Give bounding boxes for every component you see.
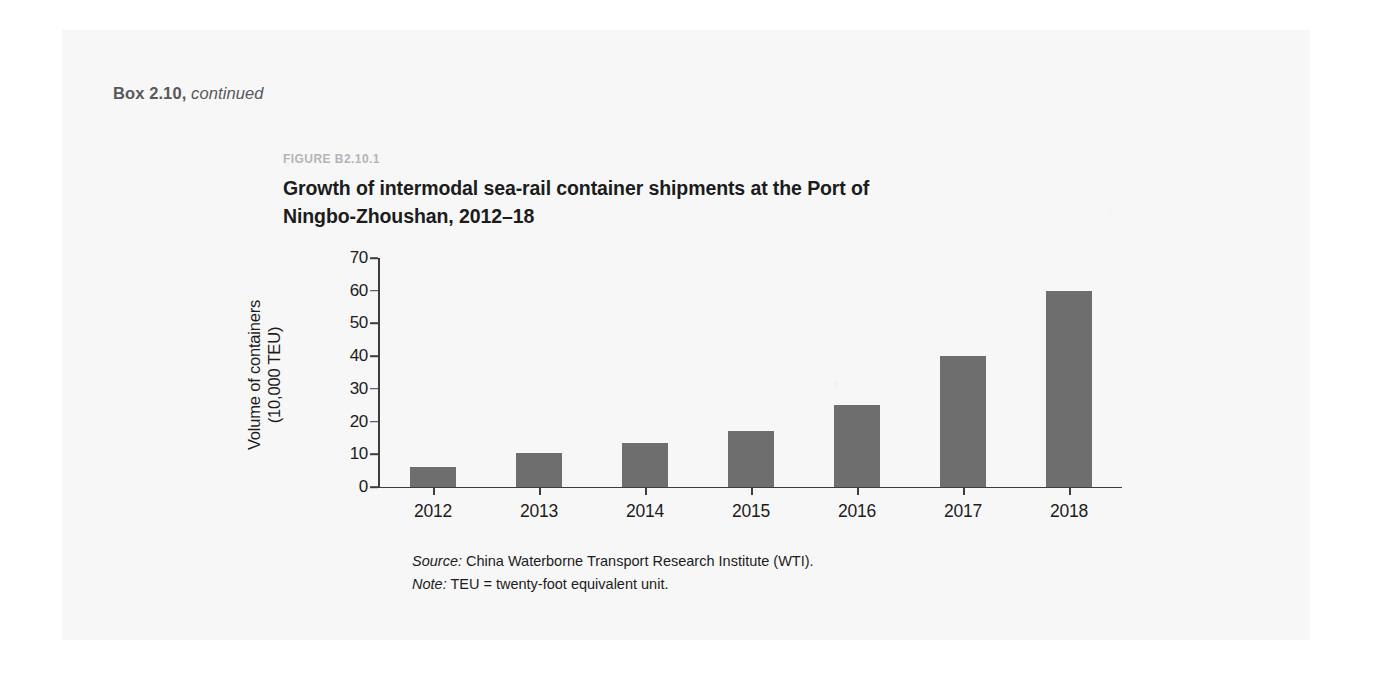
figure-number: FIGURE B2.10.1 — [283, 152, 1183, 166]
y-axis-title: Volume of containers (10,000 TEU) — [244, 266, 284, 484]
y-axis-tick-label: 0 — [359, 477, 368, 497]
bar-2012 — [410, 467, 456, 487]
note-text: TEU = twenty-foot equivalent unit. — [447, 576, 669, 592]
x-axis-tick-label: 2014 — [592, 501, 698, 522]
bar-2016 — [834, 405, 880, 487]
x-axis-tick-mark — [539, 487, 541, 495]
y-axis-title-line1: Volume of containers — [244, 266, 264, 484]
bar-slot — [910, 258, 1016, 487]
bar-series — [380, 258, 1122, 487]
y-axis-ticks: 010203040506070 — [336, 258, 378, 488]
x-axis-tick-mark — [963, 487, 965, 495]
y-axis-tick-mark — [370, 355, 378, 357]
x-axis-tick-label: 2013 — [486, 501, 592, 522]
x-axis-tick-mark — [433, 487, 435, 495]
box-header: Box 2.10, continued — [113, 84, 264, 103]
bar-slot — [380, 258, 486, 487]
bar-2018 — [1046, 291, 1092, 487]
bar-slot — [804, 258, 910, 487]
y-axis-tick-mark — [370, 257, 378, 259]
source-text: China Waterborne Transport Research Inst… — [462, 553, 814, 569]
box-header-label: Box 2.10, — [113, 84, 186, 102]
y-axis-tick-label: 50 — [350, 313, 368, 333]
y-axis-tick-mark — [370, 323, 378, 325]
figure-source: Source: China Waterborne Transport Resea… — [412, 550, 814, 573]
y-axis-tick-mark — [370, 453, 378, 455]
bar-chart: Volume of containers (10,000 TEU) 010203… — [258, 258, 1158, 548]
bar-slot — [486, 258, 592, 487]
bar-2013 — [516, 453, 562, 487]
x-axis-tick-label: 2015 — [698, 501, 804, 522]
y-axis-tick-label: 70 — [350, 248, 368, 268]
box-header-continued: continued — [191, 84, 263, 102]
x-axis-tick-labels: 2012201320142015201620172018 — [380, 501, 1122, 522]
x-axis-tick-label: 2018 — [1016, 501, 1122, 522]
y-axis-tick-label: 60 — [350, 281, 368, 301]
x-axis-tick-mark — [751, 487, 753, 495]
bar-2014 — [622, 443, 668, 487]
y-axis-tick-mark — [370, 486, 378, 488]
bar-slot — [1016, 258, 1122, 487]
bar-slot — [698, 258, 804, 487]
bar-2015 — [728, 431, 774, 487]
x-axis-tick-label: 2017 — [910, 501, 1016, 522]
y-axis-tick-label: 10 — [350, 444, 368, 464]
note-lead: Note: — [412, 576, 447, 592]
x-axis-tick-mark — [1069, 487, 1071, 495]
figure-title: Growth of intermodal sea-rail container … — [283, 175, 943, 230]
y-axis-tick-label: 40 — [350, 346, 368, 366]
y-axis-tick-mark — [370, 290, 378, 292]
y-axis-title-line2: (10,000 TEU) — [264, 266, 284, 484]
y-axis-tick-label: 30 — [350, 379, 368, 399]
x-axis-tick-label: 2016 — [804, 501, 910, 522]
y-axis-tick-label: 20 — [350, 412, 368, 432]
y-axis-tick-mark — [370, 421, 378, 423]
figure-heading-block: FIGURE B2.10.1 Growth of intermodal sea-… — [283, 152, 1183, 230]
figure-footnotes: Source: China Waterborne Transport Resea… — [412, 550, 814, 596]
bar-slot — [592, 258, 698, 487]
x-axis-tick-mark — [857, 487, 859, 495]
figure-note: Note: TEU = twenty-foot equivalent unit. — [412, 573, 814, 596]
x-axis-tick-mark — [645, 487, 647, 495]
bar-2017 — [940, 356, 986, 487]
y-axis-tick-mark — [370, 388, 378, 390]
source-lead: Source: — [412, 553, 462, 569]
x-axis-tick-label: 2012 — [380, 501, 486, 522]
plot-area: 010203040506070 201220132014201520162017… — [336, 258, 1136, 548]
